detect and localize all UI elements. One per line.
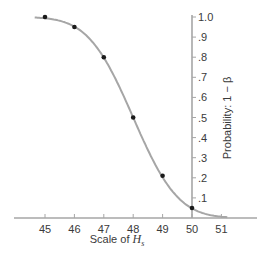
data-point	[160, 173, 165, 178]
y-tick-label: .6	[198, 91, 207, 103]
y-axis-ticks: 1.0.9.8.7.6.5.4.3.2.1	[192, 11, 213, 204]
data-point	[190, 206, 195, 211]
y-tick-label: .8	[198, 51, 207, 63]
data-point	[131, 115, 136, 120]
x-tick-label: 46	[68, 223, 80, 235]
data-point	[43, 15, 48, 20]
y-tick-label: .1	[198, 192, 207, 204]
y-tick-label: 1.0	[198, 11, 213, 23]
data-points	[43, 15, 195, 211]
y-tick-label: .9	[198, 31, 207, 43]
x-tick-label: 50	[186, 223, 198, 235]
x-tick-label: 51	[215, 223, 227, 235]
y-tick-label: .3	[198, 152, 207, 164]
y-tick-label: .2	[198, 172, 207, 184]
power-curve-chart: 45464748495051 1.0.9.8.7.6.5.4.3.2.1 Sca…	[0, 0, 271, 263]
x-tick-label: 45	[39, 223, 51, 235]
y-axis-label: Probability: 1 − β	[221, 77, 233, 159]
data-point	[72, 25, 77, 30]
data-point	[102, 55, 107, 60]
y-tick-label: .5	[198, 112, 207, 124]
y-tick-label: .4	[198, 132, 207, 144]
y-tick-label: .7	[198, 71, 207, 83]
x-tick-label: 49	[156, 223, 168, 235]
x-axis-label: Scale of Hs	[90, 232, 145, 248]
